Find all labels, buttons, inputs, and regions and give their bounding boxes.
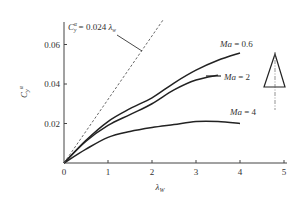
y-tick-label: 0.02 bbox=[44, 119, 60, 129]
x-tick-label: 5 bbox=[282, 167, 287, 177]
curve-ma-2 bbox=[64, 75, 218, 163]
svg-text:Cyα: Cyα bbox=[18, 85, 30, 98]
x-tick-label: 1 bbox=[106, 167, 111, 177]
x-tick-label: 0 bbox=[62, 167, 67, 177]
curve-ma-4 bbox=[64, 121, 240, 163]
label-ma-2: Ma = 2 bbox=[223, 72, 250, 82]
x-axis-label: λW bbox=[155, 182, 166, 193]
formula-leader-line bbox=[117, 35, 142, 51]
x-tick-label: 3 bbox=[194, 167, 199, 177]
chart: 0123450.020.040.06 Cyα λW Cαy = 0.024 λw… bbox=[0, 0, 301, 201]
y-tick-label: 0.04 bbox=[44, 79, 60, 89]
label-ma-4: Ma = 4 bbox=[229, 107, 257, 117]
x-tick-label: 4 bbox=[238, 167, 243, 177]
x-tick-label: 2 bbox=[150, 167, 155, 177]
curve-cy-0-024-w bbox=[64, 20, 163, 163]
y-axis-label: Cyα bbox=[18, 85, 30, 98]
label-ma-0-6: Ma = 0.6 bbox=[219, 39, 253, 49]
delta-wing-icon bbox=[264, 52, 285, 110]
formula-annotation: Cαy = 0.024 λw bbox=[68, 21, 116, 33]
curves bbox=[64, 20, 240, 163]
y-tick-label: 0.06 bbox=[44, 40, 60, 50]
